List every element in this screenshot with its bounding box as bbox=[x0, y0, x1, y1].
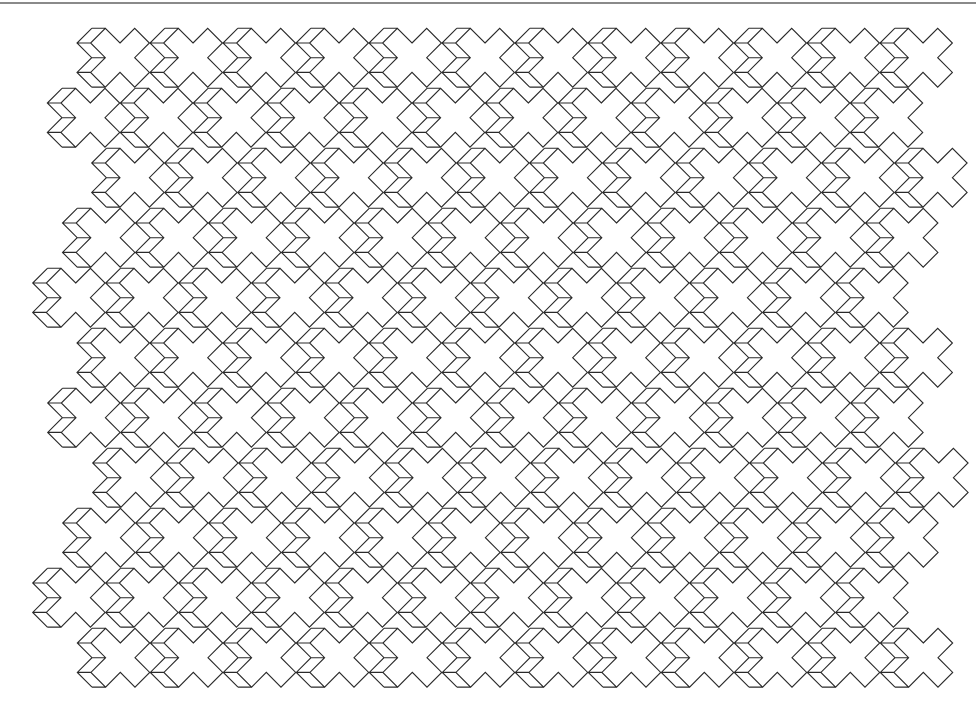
x-tile bbox=[530, 148, 602, 207]
x-tile bbox=[866, 508, 938, 567]
x-tile bbox=[442, 628, 514, 687]
x-tile bbox=[120, 88, 192, 147]
x-tile bbox=[588, 628, 660, 687]
x-tile bbox=[880, 628, 952, 687]
x-tile bbox=[412, 88, 484, 147]
x-tile bbox=[617, 268, 689, 327]
x-tile bbox=[704, 88, 776, 147]
x-tile bbox=[282, 208, 354, 267]
x-tile bbox=[617, 568, 689, 627]
x-tile bbox=[77, 28, 149, 87]
x-tile bbox=[385, 448, 457, 507]
x-tile bbox=[398, 568, 470, 627]
x-tile bbox=[866, 208, 938, 267]
x-tile bbox=[851, 388, 923, 447]
x-tile bbox=[121, 388, 193, 447]
x-tile bbox=[690, 568, 762, 627]
x-tile bbox=[193, 88, 265, 147]
x-tile bbox=[531, 448, 603, 507]
x-tile bbox=[209, 208, 281, 267]
x-tile bbox=[647, 208, 719, 267]
x-tile bbox=[822, 148, 894, 207]
x-tile bbox=[880, 328, 952, 387]
x-tile bbox=[106, 568, 178, 627]
x-tile bbox=[485, 88, 557, 147]
x-tile bbox=[442, 328, 514, 387]
x-tile bbox=[896, 448, 968, 507]
x-tile bbox=[194, 388, 266, 447]
x-tile bbox=[239, 448, 311, 507]
x-tile bbox=[836, 568, 908, 627]
x-tile bbox=[677, 448, 749, 507]
x-tile bbox=[252, 268, 324, 327]
x-tile bbox=[48, 388, 120, 447]
x-tile bbox=[501, 208, 573, 267]
x-tile bbox=[355, 508, 427, 567]
x-tile bbox=[763, 268, 835, 327]
x-tile bbox=[267, 388, 339, 447]
x-tile bbox=[150, 328, 222, 387]
x-tile bbox=[136, 208, 208, 267]
x-tile bbox=[632, 388, 704, 447]
x-tile bbox=[369, 28, 441, 87]
x-tile bbox=[661, 328, 733, 387]
x-tile bbox=[312, 448, 384, 507]
x-tile bbox=[793, 208, 865, 267]
x-tile bbox=[558, 88, 630, 147]
x-tile bbox=[574, 208, 646, 267]
x-tile bbox=[705, 388, 777, 447]
x-tile bbox=[457, 148, 529, 207]
x-tile bbox=[428, 208, 500, 267]
x-tile bbox=[750, 448, 822, 507]
x-tile bbox=[544, 268, 616, 327]
x-tile bbox=[458, 448, 530, 507]
x-tile bbox=[778, 388, 850, 447]
x-tile bbox=[384, 148, 456, 207]
x-tile bbox=[823, 448, 895, 507]
x-tile bbox=[77, 328, 149, 387]
x-tile bbox=[734, 328, 806, 387]
x-tile bbox=[515, 28, 587, 87]
x-tile bbox=[471, 568, 543, 627]
x-tile bbox=[734, 628, 806, 687]
x-tile bbox=[428, 508, 500, 567]
x-tile bbox=[325, 568, 397, 627]
x-tile bbox=[311, 148, 383, 207]
x-tile bbox=[238, 148, 310, 207]
x-tile bbox=[588, 28, 660, 87]
x-tile bbox=[369, 628, 441, 687]
x-tile bbox=[544, 568, 616, 627]
x-tile bbox=[690, 268, 762, 327]
x-tile bbox=[588, 328, 660, 387]
x-tile bbox=[631, 88, 703, 147]
x-tile bbox=[77, 628, 149, 687]
x-tile bbox=[369, 328, 441, 387]
x-tile bbox=[398, 268, 470, 327]
x-tile bbox=[355, 208, 427, 267]
x-tile bbox=[340, 388, 412, 447]
x-tile bbox=[807, 28, 879, 87]
x-tile bbox=[777, 88, 849, 147]
x-tile bbox=[150, 28, 222, 87]
x-tile bbox=[720, 508, 792, 567]
x-tile bbox=[266, 88, 338, 147]
x-tile bbox=[296, 28, 368, 87]
x-tile bbox=[63, 508, 135, 567]
x-tile bbox=[850, 88, 922, 147]
x-tile bbox=[165, 148, 237, 207]
x-tile bbox=[166, 448, 238, 507]
x-tile bbox=[179, 568, 251, 627]
x-tile bbox=[749, 148, 821, 207]
x-tile bbox=[807, 628, 879, 687]
x-tile bbox=[471, 268, 543, 327]
x-tile bbox=[282, 508, 354, 567]
x-tile bbox=[836, 268, 908, 327]
x-tile bbox=[223, 328, 295, 387]
x-tile bbox=[209, 508, 281, 567]
x-tile-tessellation bbox=[0, 0, 980, 716]
x-tile bbox=[106, 268, 178, 327]
x-tile bbox=[763, 568, 835, 627]
x-tile bbox=[33, 268, 105, 327]
x-tile bbox=[676, 148, 748, 207]
x-tile bbox=[793, 508, 865, 567]
